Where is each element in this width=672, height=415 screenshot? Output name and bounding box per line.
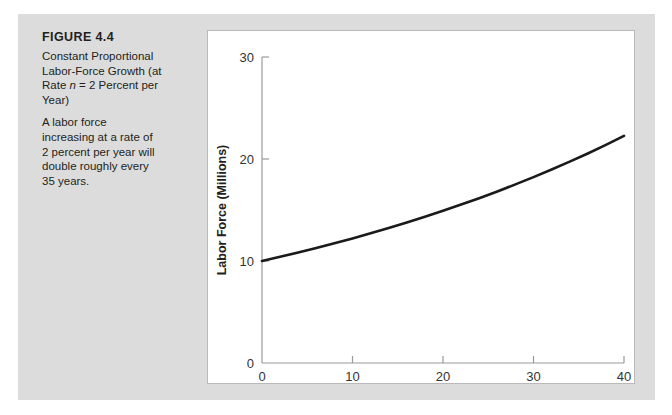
figure-note-line-4: double roughly every <box>42 160 149 172</box>
figure-title-line-3-prefix: Rate <box>42 79 70 91</box>
y-axis <box>262 57 269 363</box>
figure-title-line-3-suffix: = 2 Percent per <box>76 79 158 91</box>
axis-tick-labels: 0102030010203040 <box>240 50 632 384</box>
labor-force-curve <box>262 136 624 261</box>
y-axis-title: Labor Force (Millions) <box>215 145 229 276</box>
y-tick-label: 30 <box>240 50 254 65</box>
y-tick-label: 0 <box>247 356 254 371</box>
figure-note: A labor force increasing at a rate of 2 … <box>42 115 194 188</box>
chart-plot-panel: 0102030010203040 Years after Start Labor… <box>207 30 635 384</box>
x-axis <box>262 356 624 363</box>
y-tick-label: 20 <box>240 152 254 167</box>
data-series-line <box>262 136 624 261</box>
x-tick-label: 40 <box>617 369 631 383</box>
x-tick-label: 10 <box>345 369 359 383</box>
x-tick-label: 20 <box>436 369 450 383</box>
x-tick-label: 0 <box>258 369 265 383</box>
figure-title-line-4: Year) <box>42 94 69 106</box>
x-tick-label: 30 <box>526 369 540 383</box>
figure-caption: FIGURE 4.4 Constant Proportional Labor-F… <box>42 30 194 188</box>
y-tick-label: 10 <box>240 254 254 269</box>
labor-force-growth-chart: 0102030010203040 Years after Start Labor… <box>208 31 634 383</box>
figure-title: Constant Proportional Labor-Force Growth… <box>42 49 194 107</box>
figure-note-line-2: increasing at a rate of <box>42 131 153 143</box>
figure-panel: FIGURE 4.4 Constant Proportional Labor-F… <box>18 14 655 400</box>
figure-note-line-5: 35 years. <box>42 175 89 187</box>
figure-note-line-3: 2 percent per year will <box>42 146 155 158</box>
figure-title-line-2: Labor-Force Growth (at <box>42 65 162 77</box>
figure-title-line-1: Constant Proportional <box>42 50 153 62</box>
figure-number-label: FIGURE 4.4 <box>42 30 194 44</box>
figure-note-line-1: A labor force <box>42 116 107 128</box>
